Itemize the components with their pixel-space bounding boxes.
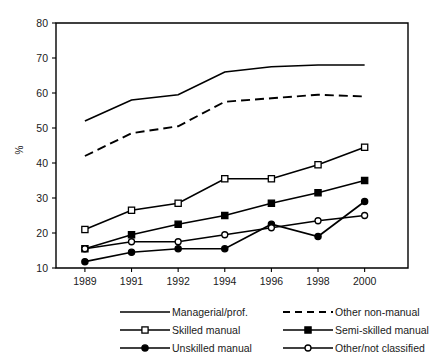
data-point-marker: [128, 249, 134, 255]
data-point-marker: [129, 239, 135, 245]
data-point-marker: [315, 218, 321, 224]
y-tick-label: 70: [36, 52, 48, 64]
legend-label: Managerial/prof.: [172, 306, 248, 318]
data-point-marker: [268, 225, 274, 231]
data-point-marker: [315, 233, 321, 239]
data-point-marker: [315, 190, 321, 196]
y-tick-label: 30: [36, 192, 48, 204]
y-tick-label: 80: [36, 17, 48, 29]
data-point-marker: [142, 327, 148, 333]
y-tick-label: 60: [36, 87, 48, 99]
x-tick-label: 1989: [73, 275, 97, 287]
y-axis-title: %: [14, 145, 25, 154]
x-tick-label: 1992: [166, 275, 190, 287]
data-point-marker: [128, 207, 134, 213]
data-point-marker: [222, 212, 228, 218]
x-tick-label: 1994: [213, 275, 237, 287]
data-point-marker: [175, 200, 181, 206]
data-point-marker: [175, 246, 181, 252]
x-tick-label: 1998: [306, 275, 330, 287]
legend-label: Other/not classified: [335, 342, 425, 354]
data-point-marker: [128, 232, 134, 238]
legend-label: Unskilled manual: [172, 342, 252, 354]
data-point-marker: [305, 327, 311, 333]
y-tick-label: 20: [36, 227, 48, 239]
data-point-marker: [305, 345, 311, 351]
data-point-marker: [222, 176, 228, 182]
data-point-marker: [222, 232, 228, 238]
x-tick-label: 1996: [260, 275, 284, 287]
legend-label: Semi-skilled manual: [335, 324, 429, 336]
line-chart: 1020304050607080 % 198919911992199419961…: [0, 0, 435, 361]
y-tick-label: 10: [36, 262, 48, 274]
data-point-marker: [362, 213, 368, 219]
legend-label: Skilled manual: [172, 324, 240, 336]
legend-label: Other non-manual: [335, 306, 420, 318]
data-point-marker: [82, 259, 88, 265]
x-tick-label: 2000: [353, 275, 377, 287]
data-point-marker: [175, 239, 181, 245]
data-point-marker: [362, 144, 368, 150]
data-point-marker: [362, 177, 368, 183]
data-point-marker: [175, 221, 181, 227]
data-point-marker: [82, 246, 88, 252]
x-tick-label: 1991: [120, 275, 144, 287]
data-point-marker: [82, 226, 88, 232]
y-tick-label: 50: [36, 122, 48, 134]
data-point-marker: [268, 200, 274, 206]
data-point-marker: [268, 176, 274, 182]
data-point-marker: [142, 345, 148, 351]
data-point-marker: [315, 162, 321, 168]
data-point-marker: [362, 198, 368, 204]
data-point-marker: [222, 246, 228, 252]
y-tick-label: 40: [36, 157, 48, 169]
